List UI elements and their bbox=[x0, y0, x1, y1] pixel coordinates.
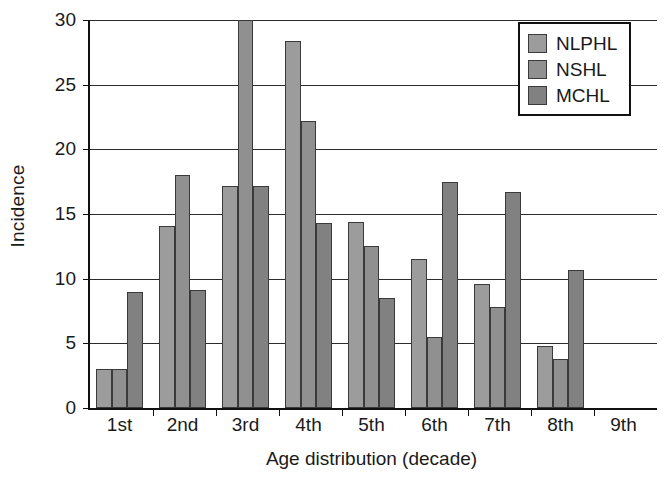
bar bbox=[490, 307, 506, 408]
y-axis-title: Incidence bbox=[0, 0, 36, 412]
y-tick-mark bbox=[83, 408, 90, 409]
bar bbox=[96, 369, 112, 408]
bar bbox=[222, 186, 238, 408]
legend-item: NLPHL bbox=[528, 30, 617, 56]
bar bbox=[427, 337, 443, 408]
y-axis-title-text: Incidence bbox=[7, 164, 29, 247]
bar bbox=[553, 359, 569, 408]
bar bbox=[190, 290, 206, 408]
y-tick-mark bbox=[83, 149, 90, 150]
x-tick-label: 9th bbox=[610, 414, 636, 436]
bar bbox=[253, 186, 269, 408]
bar bbox=[568, 270, 584, 408]
legend-swatch-icon bbox=[528, 34, 547, 53]
y-tick-label: 30 bbox=[55, 9, 76, 31]
legend-item: NSHL bbox=[528, 56, 617, 82]
bar bbox=[442, 182, 458, 408]
x-axis-title: Age distribution (decade) bbox=[88, 448, 655, 470]
bar bbox=[238, 20, 254, 408]
bar bbox=[301, 121, 317, 408]
y-tick-mark bbox=[83, 279, 90, 280]
x-tick-label: 2nd bbox=[167, 414, 199, 436]
bar bbox=[364, 246, 380, 408]
y-tick-mark bbox=[83, 343, 90, 344]
x-tick-label: 5th bbox=[358, 414, 384, 436]
bar bbox=[411, 259, 427, 408]
y-tick-mark bbox=[83, 85, 90, 86]
legend-label: NLPHL bbox=[556, 34, 617, 53]
y-tick-label: 15 bbox=[55, 203, 76, 225]
bar bbox=[285, 41, 301, 408]
y-axis-tick-labels: 051015202530 bbox=[36, 0, 82, 412]
x-tick-label: 4th bbox=[295, 414, 321, 436]
legend-label: MCHL bbox=[556, 86, 610, 105]
legend-label: NSHL bbox=[556, 60, 607, 79]
x-tick-label: 8th bbox=[547, 414, 573, 436]
y-tick-mark bbox=[83, 214, 90, 215]
bar bbox=[175, 175, 191, 408]
bar bbox=[379, 298, 395, 408]
legend-item: MCHL bbox=[528, 82, 617, 108]
bar bbox=[537, 346, 553, 408]
chart-legend: NLPHLNSHLMCHL bbox=[518, 22, 631, 116]
bar bbox=[159, 226, 175, 408]
y-tick-label: 5 bbox=[65, 332, 76, 354]
x-tick-label: 1st bbox=[107, 414, 132, 436]
y-tick-mark bbox=[83, 20, 90, 21]
y-tick-label: 20 bbox=[55, 138, 76, 160]
legend-swatch-icon bbox=[528, 86, 547, 105]
x-tick-label: 6th bbox=[421, 414, 447, 436]
legend-swatch-icon bbox=[528, 60, 547, 79]
bar bbox=[348, 222, 364, 408]
y-tick-label: 25 bbox=[55, 74, 76, 96]
x-axis-tick-labels: 1st2nd3rd4th5th6th7th8th9th bbox=[88, 414, 655, 444]
y-tick-label: 0 bbox=[65, 397, 76, 419]
bar bbox=[112, 369, 128, 408]
bar bbox=[316, 223, 332, 408]
incidence-bar-chart: Incidence 051015202530 1st2nd3rd4th5th6t… bbox=[0, 0, 670, 479]
bar bbox=[474, 284, 490, 408]
x-tick-label: 3rd bbox=[232, 414, 259, 436]
bar bbox=[505, 192, 521, 408]
x-tick-label: 7th bbox=[484, 414, 510, 436]
bar bbox=[127, 292, 143, 408]
y-tick-label: 10 bbox=[55, 268, 76, 290]
